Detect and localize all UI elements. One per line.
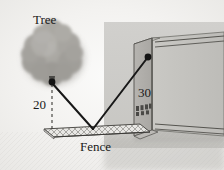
tree-base-point bbox=[49, 79, 56, 86]
wall-inner-face bbox=[152, 32, 224, 136]
tree-label: Tree bbox=[33, 13, 56, 26]
wall-height-label: 30 bbox=[138, 86, 151, 99]
diagram-figure: Tree 20 30 Fence bbox=[0, 0, 224, 170]
ground-shadow bbox=[104, 138, 224, 170]
wall-target-point bbox=[145, 54, 152, 61]
fence-label: Fence bbox=[80, 140, 111, 153]
tree-height-label: 20 bbox=[33, 98, 46, 111]
